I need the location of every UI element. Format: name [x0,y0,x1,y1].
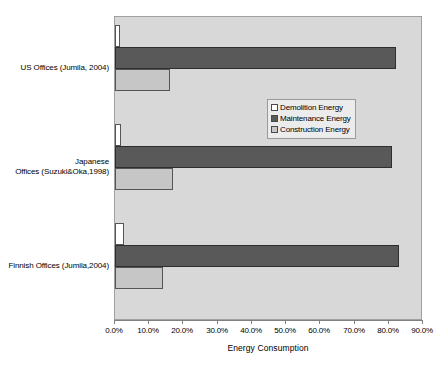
chart-legend: Demolition Energy Maintenance Energy Con… [267,99,356,139]
bar-demolition-japanese[interactable] [115,124,121,146]
energy-consumption-bar-chart: Demolition Energy Maintenance Energy Con… [0,0,436,368]
legend-swatch-construction-icon [271,126,278,133]
bar-maintenance-us[interactable] [115,47,396,69]
x-tick [148,320,149,324]
x-axis-title: Energy Consumption [114,343,422,353]
legend-label-maintenance: Maintenance Energy [280,113,351,124]
ylabel-japanese-offices: Japanese Offices (Suzuki&Oka,1998) [0,157,112,177]
x-tick [388,320,389,324]
bar-construction-japanese[interactable] [115,168,173,190]
x-tick [354,320,355,324]
x-tick [285,320,286,324]
x-tick [319,320,320,324]
x-tick [182,320,183,324]
x-axis-line [114,320,422,321]
legend-item-demolition[interactable]: Demolition Energy [271,102,351,113]
legend-label-demolition: Demolition Energy [280,102,343,113]
legend-swatch-maintenance-icon [271,115,278,122]
ylabel-line: Offices (Suzuki&Oka,1998) [0,167,109,177]
bar-demolition-finnish[interactable] [115,223,124,245]
bar-construction-finnish[interactable] [115,267,163,289]
x-tick [251,320,252,324]
x-tick [217,320,218,324]
legend-label-construction: Construction Energy [280,124,350,135]
x-tick [422,320,423,324]
x-tick-label: 90.0% [400,326,436,335]
ylabel-line: Japanese [0,157,109,167]
ylabel-us-offices: US Offices (Jumila, 2004) [0,63,112,73]
ylabel-line: US Offices (Jumila, 2004) [0,63,109,73]
legend-item-construction[interactable]: Construction Energy [271,124,351,135]
ylabel-finnish-offices: Finnish Offices (Jumila,2004) [0,261,112,271]
bar-maintenance-japanese[interactable] [115,146,392,168]
ylabel-line: Finnish Offices (Jumila,2004) [0,261,109,271]
legend-swatch-demolition-icon [271,104,278,111]
bar-maintenance-finnish[interactable] [115,245,399,267]
plot-area: Demolition Energy Maintenance Energy Con… [114,16,422,320]
bar-demolition-us[interactable] [115,25,120,47]
x-tick [114,320,115,324]
legend-item-maintenance[interactable]: Maintenance Energy [271,113,351,124]
bar-construction-us[interactable] [115,69,170,91]
